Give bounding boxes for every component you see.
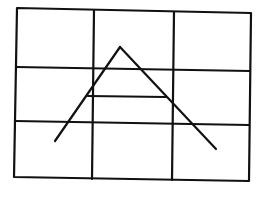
figure-left-stroke [55,47,120,141]
grid-horizontal-line [16,67,250,71]
a-shape-figure [55,47,216,149]
grid-vertical-line [92,10,94,179]
diagram-canvas [0,0,263,197]
figure-crossbar [88,96,166,97]
figure-right-stroke [120,47,216,149]
grid-outer-border [14,8,251,181]
grid-horizontal-line [15,121,249,125]
grid-vertical-line [172,12,174,180]
grid [14,8,251,181]
